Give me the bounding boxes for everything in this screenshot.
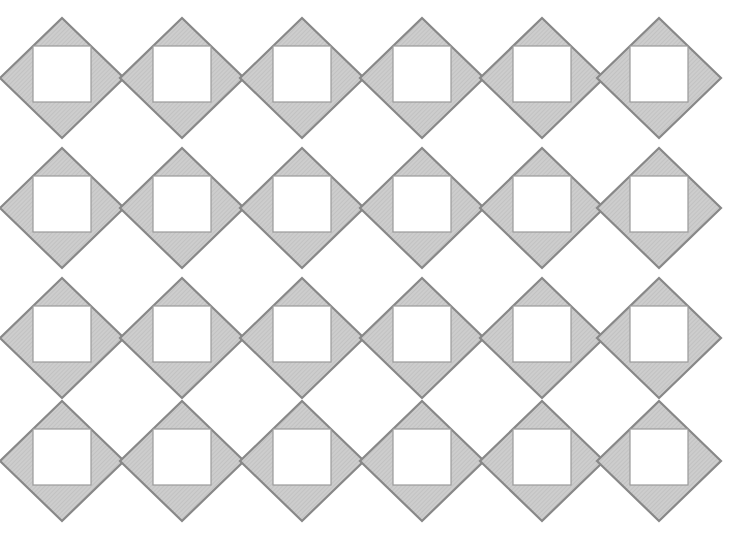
inner-white-square	[630, 176, 688, 232]
inner-white-square	[273, 176, 331, 232]
diamond-lattice-grid	[0, 0, 741, 537]
inner-white-square	[153, 429, 211, 485]
inner-white-square	[393, 429, 451, 485]
diagram-canvas	[0, 0, 741, 537]
inner-white-square	[630, 46, 688, 102]
inner-white-square	[630, 429, 688, 485]
inner-white-square	[513, 306, 571, 362]
inner-white-square	[33, 306, 91, 362]
inner-white-square	[33, 176, 91, 232]
inner-white-square	[393, 46, 451, 102]
inner-white-square	[153, 176, 211, 232]
inner-white-square	[153, 306, 211, 362]
inner-white-square	[153, 46, 211, 102]
inner-white-square	[393, 306, 451, 362]
inner-white-square	[273, 306, 331, 362]
inner-white-square	[630, 306, 688, 362]
inner-white-square	[513, 46, 571, 102]
inner-white-square	[513, 429, 571, 485]
inner-white-square	[33, 429, 91, 485]
inner-white-square	[513, 176, 571, 232]
inner-white-square	[273, 46, 331, 102]
inner-white-square	[33, 46, 91, 102]
inner-white-square	[273, 429, 331, 485]
inner-white-square	[393, 176, 451, 232]
